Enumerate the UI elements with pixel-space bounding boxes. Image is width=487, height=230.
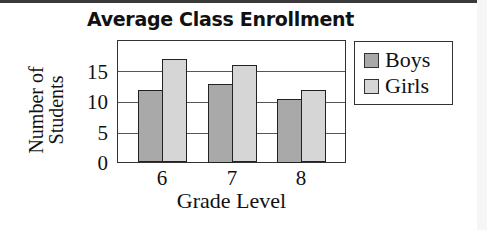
bar-boys-grade-7 [208,84,233,163]
y-tick-10: 10 [68,92,108,113]
bar-girls-grade-6 [162,59,187,163]
bar-girls-grade-7 [232,65,257,163]
y-axis-label-line-1: Number of [26,47,46,173]
bar-boys-grade-6 [138,90,163,163]
legend-item-boys: Boys [364,48,430,72]
y-tick-15: 15 [68,62,108,83]
top-rule [0,0,481,3]
legend-item-girls: Girls [364,74,429,98]
page-edge [477,0,487,230]
legend: Boys Girls [354,41,453,105]
legend-label-girls: Girls [385,73,429,99]
y-tick-5: 5 [68,123,108,144]
legend-label-boys: Boys [385,47,430,73]
y-tick-0: 0 [68,153,108,174]
x-axis-label: Grade Level [117,188,346,214]
y-axis-label-line-2: Students [46,47,66,173]
y-axis-label: Number of Students [26,47,66,173]
chart-title: Average Class Enrollment [0,8,487,30]
plot-area [117,40,346,163]
boys-swatch [364,53,379,68]
girls-swatch [364,79,379,94]
bar-girls-grade-8 [301,90,326,163]
bar-boys-grade-8 [277,99,302,163]
